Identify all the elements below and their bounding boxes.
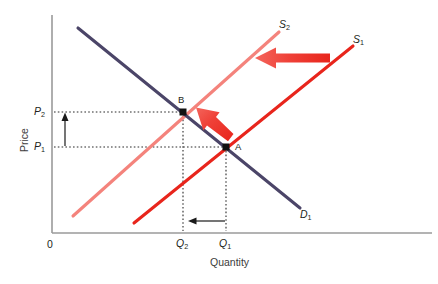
supply-demand-diagram: Price Quantity 0 P2 P1 Q2 Q1 S2 S1 D1 B … [0,0,438,284]
y-tick-p1-sub: 1 [41,145,45,154]
x-tick-q2-text: Q [176,237,184,249]
x-tick-q1: Q1 [219,238,231,249]
point-label-b: B [178,95,184,105]
y-axis-title: Price [19,128,30,152]
y-tick-p1-text: P [34,140,41,152]
equilibrium-shift-arrow-icon [196,108,234,142]
equilibrium-point-a [223,144,230,151]
curve-label-s2-sub: 2 [286,23,290,32]
quantity-decrease-arrow-icon [188,218,225,225]
y-tick-p2-text: P [34,105,41,117]
x-tick-q2: Q2 [176,238,188,249]
curve-label-s2-text: S [279,18,286,30]
x-axis-title: Quantity [210,257,249,268]
x-tick-q2-sub: 2 [184,242,188,251]
y-tick-p2-sub: 2 [41,110,45,119]
point-label-a: A [235,142,241,152]
curve-label-s1: S1 [353,34,364,45]
y-tick-p1: P1 [34,141,45,152]
y-tick-p2: P2 [34,106,45,117]
curve-label-d1-sub: 1 [308,213,312,222]
curve-label-s1-text: S [353,33,360,45]
curve-label-s2: S2 [279,19,290,30]
origin-label: 0 [47,239,53,250]
curve-label-s1-sub: 1 [360,38,364,47]
x-tick-q1-sub: 1 [227,242,231,251]
x-tick-q1-text: Q [219,237,227,249]
supply-curve-s1 [134,46,353,223]
equilibrium-point-b [180,109,187,116]
price-increase-arrow-icon [62,113,69,147]
curve-label-d1-text: D [300,208,308,220]
curve-label-d1: D1 [300,209,312,220]
supply-shift-arrow-icon [255,48,330,69]
